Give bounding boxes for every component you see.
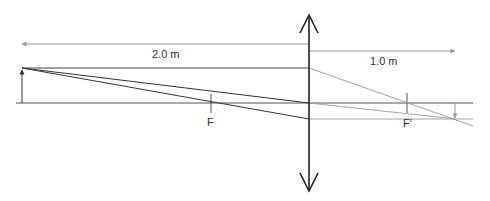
- focal-point-f-label: F: [207, 116, 214, 128]
- parallel-ray-refracted: [309, 68, 473, 126]
- object-distance-label: 2.0 m: [152, 48, 180, 60]
- diagram-canvas: [0, 0, 490, 201]
- focal-point-f-prime-label: F′: [403, 117, 412, 129]
- center-ray-incident: [22, 68, 309, 103]
- focal-ray-incident: [22, 68, 309, 119]
- center-ray-refracted: [309, 103, 456, 119]
- image-distance-label: 1.0 m: [370, 55, 398, 67]
